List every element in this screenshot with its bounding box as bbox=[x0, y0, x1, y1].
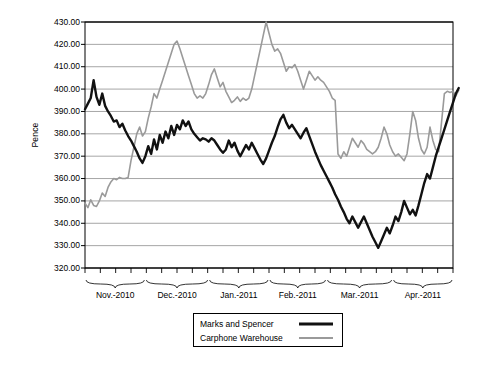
legend-swatch-carphone-warehouse bbox=[298, 329, 334, 347]
x-axis-group-label: Apr.-2011 bbox=[383, 291, 463, 300]
legend-label: Marks and Spencer bbox=[200, 320, 298, 329]
legend-label: Carphone Warehouse bbox=[200, 334, 298, 343]
stock-price-line-chart: Pence 430.00420.00410.00400.00390.00380.… bbox=[0, 0, 478, 366]
legend-item-carphone-warehouse: Carphone Warehouse bbox=[200, 331, 340, 345]
chart-legend: Marks and Spencer Carphone Warehouse bbox=[193, 313, 343, 347]
x-axis-group-labels: Nov.-2010Dec.-2010Jan.-2011Feb.-2011Mar.… bbox=[0, 0, 478, 366]
